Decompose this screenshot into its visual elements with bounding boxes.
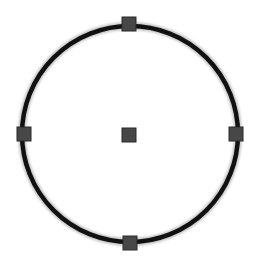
center-handle[interactable] [122,128,136,142]
left-handle[interactable] [17,127,31,141]
right-handle[interactable] [229,127,243,141]
bottom-handle[interactable] [123,236,137,250]
top-handle[interactable] [122,17,136,31]
selection-handles [17,17,243,250]
diagram-canvas [0,0,255,260]
drawing-surface [0,0,255,260]
